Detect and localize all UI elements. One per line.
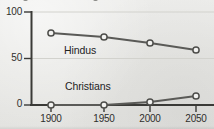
data-point	[101, 102, 107, 108]
x-tick-label-1900: 1900	[36, 113, 66, 124]
data-point	[48, 30, 54, 36]
plot-area: 100 50 0 1900 1950 2000 2050 Hindus Chri…	[0, 0, 214, 129]
x-tick-label-2050: 2050	[181, 113, 211, 124]
data-point	[101, 34, 107, 40]
chart-container: Hindus Christians	[0, 0, 214, 129]
data-point	[147, 99, 153, 105]
chart-svg	[0, 0, 214, 129]
data-point	[48, 102, 54, 108]
data-point	[193, 93, 199, 99]
series-label-hindus: Hindus	[64, 44, 96, 56]
y-tick-label-0: 0	[0, 98, 22, 109]
data-point	[147, 40, 153, 46]
y-tick-label-50: 50	[0, 52, 22, 63]
y-tick-label-100: 100	[0, 6, 22, 17]
gridlines	[31, 12, 214, 59]
x-tick-label-1950: 1950	[89, 113, 119, 124]
x-tick-label-2000: 2000	[135, 113, 165, 124]
series-line-christians	[51, 96, 196, 105]
series-label-christians: Christians	[65, 80, 111, 92]
data-point	[193, 47, 199, 53]
